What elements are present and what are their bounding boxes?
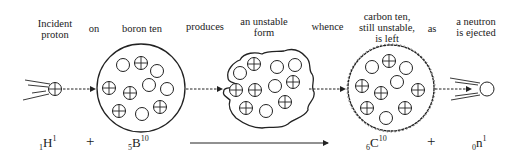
unstable-nucleus-icon (223, 50, 314, 128)
eq-carbon: 6C10 (366, 134, 387, 152)
eq-plus-2: + (427, 133, 435, 150)
eq-boron: 5B10 (128, 134, 149, 152)
reaction-diagram (0, 0, 515, 162)
eq-proton: 1H1 (39, 134, 56, 152)
boron-nucleus-icon (97, 44, 185, 132)
incident-proton-icon (23, 80, 62, 100)
eq-plus-1: + (86, 133, 94, 150)
eq-neutron: 0n1 (472, 134, 487, 152)
carbon-nucleus-icon (347, 44, 435, 132)
